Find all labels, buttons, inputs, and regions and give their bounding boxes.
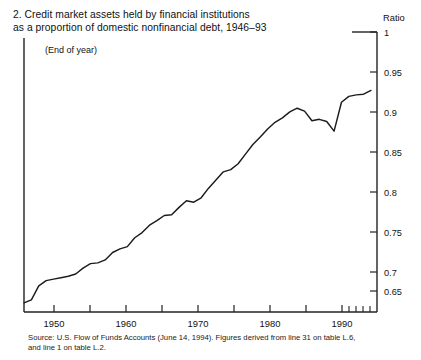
x-axis-tick-labels: 1950 1960 1970 1980 1990 [44,318,353,329]
y-axis-ticks [370,32,377,291]
data-series-line [24,90,371,302]
y-tick-label-1: 1 [384,28,389,38]
source-line2: and line 1 on table L.2. [28,343,378,353]
x-tick-label-1990: 1990 [332,318,353,329]
source-line1: Source: U.S. Flow of Funds Accounts (Jun… [28,333,355,342]
y-tick-label-0.9: 0.9 [384,108,397,118]
x-tick-label-1950: 1950 [44,318,65,329]
y-tick-label-0.85: 0.85 [384,148,402,158]
y-axis-tick-labels: 1 0.95 0.9 0.85 0.8 0.75 0.7 0.65 [384,28,402,297]
x-axis-minor-ticks [349,306,370,312]
chart-canvas: 1 0.95 0.9 0.85 0.8 0.75 0.7 0.65 [0,0,421,360]
figure-page: 2. Credit market assets held by financia… [0,0,421,360]
y-tick-label-0.65: 0.65 [384,287,402,297]
x-tick-label-1970: 1970 [188,318,209,329]
x-tick-label-1960: 1960 [116,318,137,329]
x-axis-ticks [54,305,342,312]
figure-source-note: Source: U.S. Flow of Funds Accounts (Jun… [28,333,378,353]
y-tick-label-0.75: 0.75 [384,228,402,238]
y-tick-label-0.95: 0.95 [384,68,402,78]
y-tick-label-0.8: 0.8 [384,188,397,198]
x-tick-label-1980: 1980 [260,318,281,329]
y-tick-label-0.7: 0.7 [384,268,397,278]
